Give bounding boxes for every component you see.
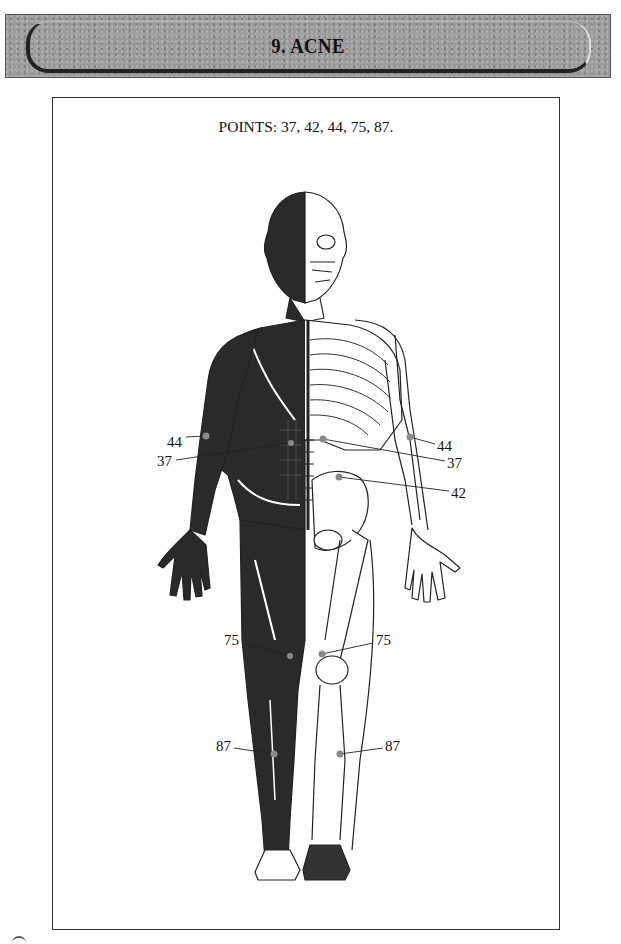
point-44-left-dot <box>203 433 210 440</box>
point-75-left-dot <box>287 653 293 659</box>
left-hand <box>158 530 210 600</box>
page-corner-mark <box>12 936 26 944</box>
point-label-75-right: 75 <box>376 632 391 649</box>
point-label-44-right: 44 <box>437 438 452 455</box>
knee <box>316 656 348 684</box>
point-42-dot <box>336 474 343 481</box>
point-label-37-right: 37 <box>447 455 462 472</box>
left-leg-muscle <box>240 520 305 860</box>
left-foot <box>255 850 300 880</box>
right-leg-bone <box>340 530 368 660</box>
point-label-42: 42 <box>451 485 466 502</box>
point-label-37-left: 37 <box>157 453 172 470</box>
point-75-right-dot <box>319 651 326 658</box>
right-hand <box>405 528 460 602</box>
point-44-right-dot <box>407 434 414 441</box>
point-87-left-dot <box>271 751 278 758</box>
point-label-75-left: 75 <box>224 632 239 649</box>
point-87-right-dot <box>337 751 344 758</box>
body-illustration <box>0 0 621 944</box>
point-label-87-right: 87 <box>385 738 400 755</box>
right-foot <box>303 845 350 880</box>
head-skull <box>305 192 347 303</box>
head-muscle <box>264 192 305 303</box>
point-label-44-left: 44 <box>167 434 182 451</box>
point-37-left-dot <box>288 440 294 446</box>
point-37-right-dot <box>320 436 327 443</box>
point-label-87-left: 87 <box>216 738 231 755</box>
